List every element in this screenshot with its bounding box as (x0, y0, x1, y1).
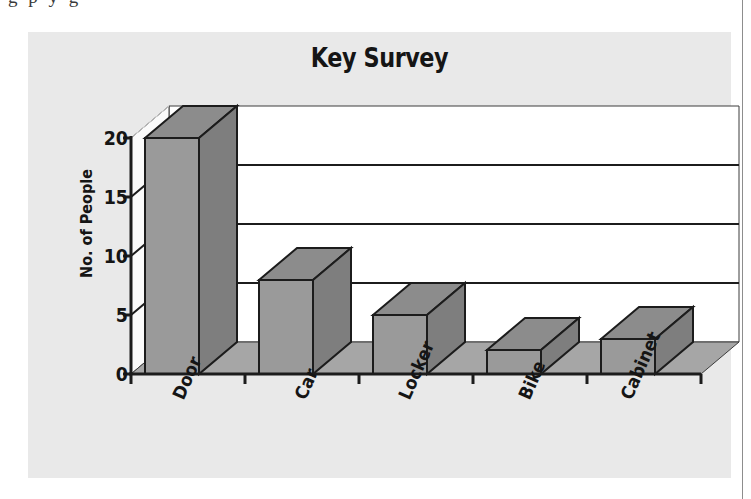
x-axis-labels: Door Car Locker Bike Cabinet (28, 32, 731, 478)
chart-panel: Key Survey No. of People (28, 32, 731, 478)
x-label-car: Car (290, 365, 322, 402)
x-label-bike: Bike (514, 357, 549, 402)
x-label-locker: Locker (394, 338, 438, 403)
x-label-door: Door (168, 353, 205, 402)
x-label-cabinet: Cabinet (616, 328, 664, 402)
plot-area: 20 15 10 5 0 Door Car Locker Bike Cabine… (28, 32, 731, 478)
document-cut-text: g p y g (8, 0, 81, 8)
document-right-rule (742, 0, 743, 499)
